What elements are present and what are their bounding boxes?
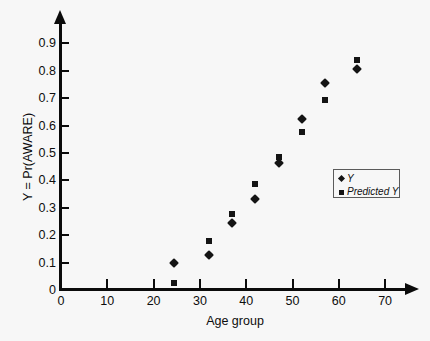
x-tick-mark [153,279,155,288]
x-tick-label: 20 [139,294,169,308]
x-tick-mark [106,279,108,288]
x-tick-mark [384,279,386,288]
y-tick-label: 0.2 [20,229,56,241]
data-point-y [251,194,261,204]
y-tick-mark [62,42,69,44]
data-point-predicted-y [354,57,360,63]
y-tick-mark [62,262,69,264]
y-tick-mark [62,97,69,99]
x-tick-label: 0 [46,294,76,308]
x-axis-title: Age group [0,314,430,328]
x-tick-label: 10 [92,294,122,308]
y-tick-mark [62,125,69,127]
x-tick-label: 30 [185,294,215,308]
legend-label-predicted-y: Predicted Y [347,186,399,197]
data-point-predicted-y [252,181,258,187]
data-point-y [352,64,362,74]
data-point-y [169,258,179,268]
y-tick-mark [62,207,69,209]
chart-legend: Y Predicted Y [333,169,400,198]
x-tick-label: 40 [231,294,261,308]
data-point-y [204,250,214,260]
square-marker-icon [337,186,347,196]
legend-label-y: Y [347,173,354,184]
y-tick-label-wrap: 0.2 [16,229,56,241]
legend-entry-y: Y [337,172,399,184]
legend-entry-predicted-y: Predicted Y [337,185,399,197]
y-tick-mark [62,70,69,72]
x-axis-arrow-icon [405,283,419,295]
data-point-predicted-y [206,238,212,244]
data-point-predicted-y [171,280,177,286]
y-tick-mark [62,234,69,236]
x-tick-mark [199,279,201,288]
y-tick-label: 0.1 [20,257,56,269]
y-tick-label-wrap: 0.8 [16,65,56,77]
data-point-y [297,114,307,124]
diamond-marker-icon [337,173,347,183]
data-point-predicted-y [276,154,282,160]
data-point-predicted-y [322,97,328,103]
x-tick-label: 70 [370,294,400,308]
x-tick-label: 60 [324,294,354,308]
y-tick-label-wrap: 0.9 [16,37,56,49]
y-axis-title: Y = Pr(AWARE) [21,87,35,227]
y-axis-arrow-icon [54,10,66,24]
x-tick-mark [245,279,247,288]
x-tick-mark [292,279,294,288]
x-tick-mark [338,279,340,288]
y-tick-mark [62,152,69,154]
data-point-y [320,78,330,88]
y-tick-mark [62,179,69,181]
scatter-chart: 00.10.20.30.40.50.60.70.80.9 01020304050… [0,0,430,341]
y-tick-label-wrap: 0.1 [16,257,56,269]
data-point-y [227,218,237,228]
y-tick-label: 0.9 [20,37,56,49]
y-tick-label: 0.8 [20,65,56,77]
data-point-predicted-y [299,129,305,135]
x-axis-line [59,288,407,291]
data-point-predicted-y [229,211,235,217]
y-axis-line [59,22,62,291]
x-tick-label: 50 [278,294,308,308]
